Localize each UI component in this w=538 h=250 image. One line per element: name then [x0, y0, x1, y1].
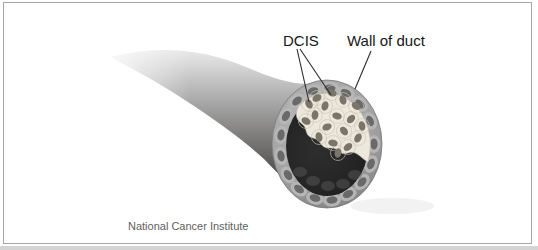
bottom-edge-strip	[0, 246, 538, 250]
wall-leader-line	[355, 51, 371, 89]
figure-stage: DCIS Wall of duct National Cancer Instit…	[0, 0, 538, 250]
ground-shadow	[350, 198, 434, 214]
wall-of-duct-label: Wall of duct	[347, 32, 426, 49]
dcis-illustration: DCIS Wall of duct National Cancer Instit…	[0, 0, 538, 250]
duct-cross-section	[272, 80, 382, 208]
credit-text: National Cancer Institute	[128, 220, 248, 232]
dcis-label: DCIS	[283, 32, 319, 49]
